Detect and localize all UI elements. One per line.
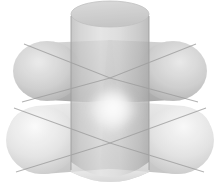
specular-highlight-core xyxy=(94,89,132,127)
cylinder-solid-illustration xyxy=(0,0,220,195)
figure-canvas: Six-armed intersecting cylinder solid th… xyxy=(0,0,220,195)
